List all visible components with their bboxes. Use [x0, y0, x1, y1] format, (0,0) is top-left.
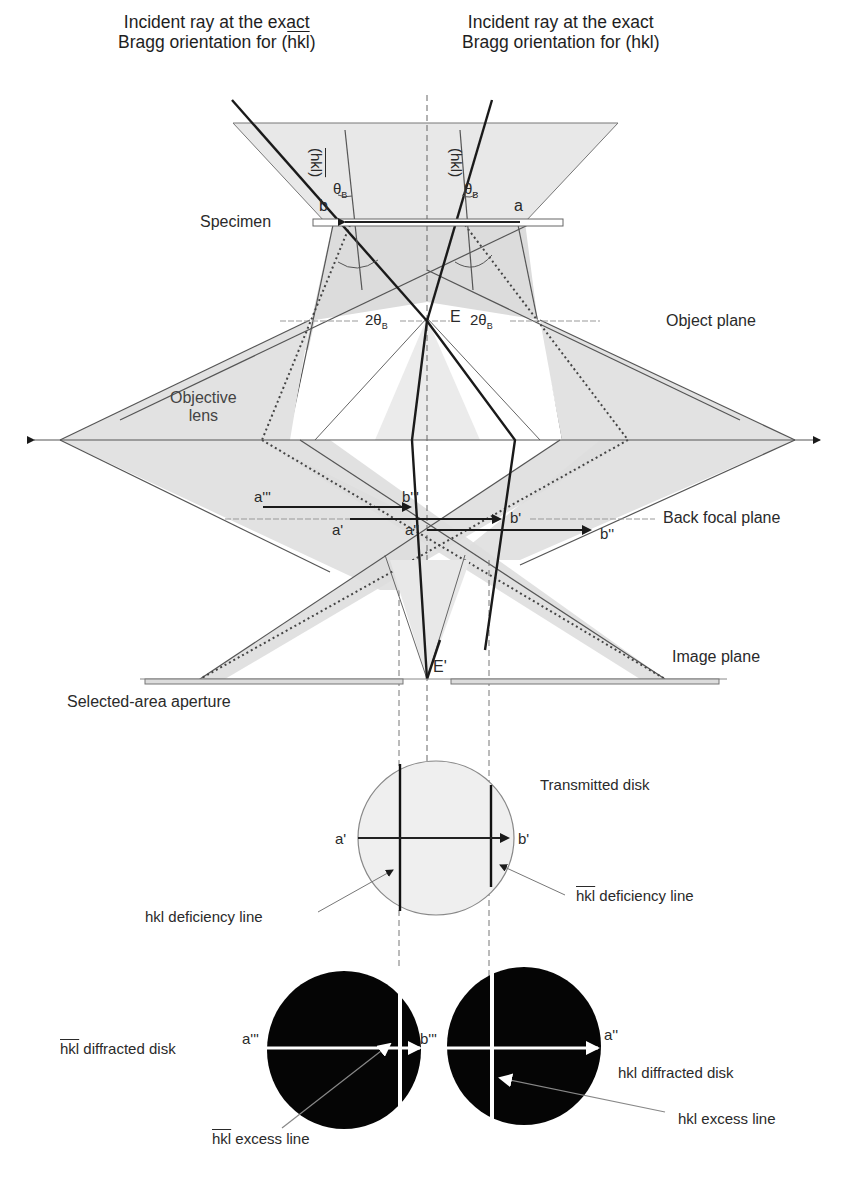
label-plane-left: (hkl) [308, 148, 325, 177]
label-hkl-excess: hkl excess line [678, 1110, 776, 1127]
label-objective-lens: Objective lens [170, 389, 237, 426]
label-dd-a2: a'' [604, 1026, 618, 1043]
label-back-focal-plane: Back focal plane [663, 509, 780, 527]
title-left-line2: Bragg orientation for (hkl) [118, 32, 315, 52]
label-transmitted-disk: Transmitted disk [540, 776, 649, 793]
label-td-b1: b' [518, 830, 529, 847]
title-left-suffix: ) [310, 32, 316, 52]
title-left-line1: Incident ray at the exact [118, 12, 315, 32]
label-theta-right: θB [464, 180, 478, 200]
title-right-line1: Incident ray at the exact [462, 12, 659, 32]
label-point-b: b [319, 197, 328, 215]
label-b2: b'' [600, 525, 614, 542]
label-specimen: Specimen [200, 213, 271, 231]
label-selected-area-aperture: Selected-area aperture [67, 693, 231, 711]
label-objective-line2: lens [170, 407, 237, 425]
label-hkl-bar-deficiency: hklhkl deficiency line deficiency line [576, 887, 694, 904]
label-b3: b''' [402, 488, 419, 505]
label-dd-a3: a''' [242, 1030, 259, 1047]
label-hkl-deficiency: hkl deficiency line [145, 908, 263, 925]
label-hkl-bar-excess: hkl excess linehkl excess line [212, 1130, 310, 1147]
title-right-line2: Bragg orientation for (hkl) [462, 32, 659, 52]
label-point-E-prime: E' [433, 658, 447, 676]
label-theta-left: θB [333, 180, 347, 200]
label-a3: a''' [254, 488, 271, 505]
label-right-diffracted-disk: hkl diffracted disk [618, 1064, 734, 1081]
diffracted-disk-left [266, 970, 421, 1135]
diffracted-disk-right [447, 960, 665, 1125]
label-2theta-right: 2θB [470, 311, 493, 331]
incident-cone [233, 123, 618, 222]
label-plane-right: (hkl) [448, 148, 465, 177]
label-2theta-left: 2θB [365, 311, 388, 331]
aperture-plates [140, 679, 727, 684]
label-dd-b3: b''' [420, 1030, 437, 1047]
label-point-a: a [514, 197, 523, 215]
label-point-E: E [450, 308, 461, 326]
label-a1: a' [332, 521, 343, 538]
label-b1: b' [510, 509, 521, 526]
image-cone [385, 555, 470, 679]
label-image-plane: Image plane [672, 648, 760, 666]
title-left-prefix: Bragg orientation for ( [118, 32, 287, 52]
title-left-hkl: hkl [287, 32, 309, 52]
label-left-diffracted-disk: hkl diffracted diskhkl diffracted disk [60, 1040, 176, 1057]
label-a2: a'' [405, 521, 419, 538]
label-objective-line1: Objective [170, 389, 237, 407]
title-left: Incident ray at the exact Bragg orientat… [118, 12, 315, 52]
diagram-canvas [0, 0, 855, 1194]
title-right: Incident ray at the exact Bragg orientat… [462, 12, 659, 52]
label-object-plane: Object plane [666, 312, 756, 330]
label-td-a1: a' [335, 830, 346, 847]
